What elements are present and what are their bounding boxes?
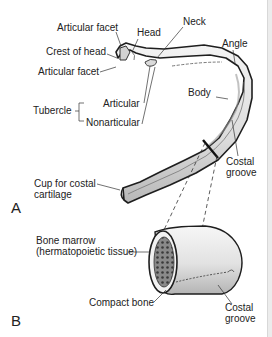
label-articular-facet-top: Articular facet xyxy=(57,22,118,34)
panel-letter-a: A xyxy=(11,200,21,216)
label-costal-groove-a-2: groove xyxy=(226,167,257,179)
label-cup-2: cartilage xyxy=(34,189,72,201)
page-edge-divider xyxy=(267,0,272,337)
label-compact-bone: Compact bone xyxy=(89,297,154,309)
rib-anatomy-figure: Articular facet Head Neck Crest of head … xyxy=(0,0,272,337)
rib-cross-section xyxy=(149,226,242,294)
label-articular: Articular xyxy=(103,98,140,110)
label-nonarticular: Nonarticular xyxy=(86,117,140,129)
label-bone-marrow-2: (hermatopoietic tissue) xyxy=(36,246,137,258)
label-angle: Angle xyxy=(222,38,248,50)
label-costal-groove-b-2: groove xyxy=(225,313,256,325)
label-body: Body xyxy=(188,87,211,99)
panel-letter-b: B xyxy=(11,313,21,329)
label-tubercle: Tubercle xyxy=(33,105,72,117)
label-neck: Neck xyxy=(183,16,206,28)
label-head: Head xyxy=(137,27,161,39)
label-articular-facet-bottom: Articular facet xyxy=(38,66,99,78)
label-crest-of-head: Crest of head xyxy=(46,46,106,58)
